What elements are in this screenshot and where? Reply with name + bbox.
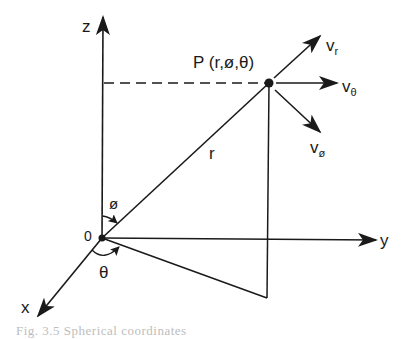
- radius-line: [102, 83, 269, 238]
- vr-label-base: v: [326, 36, 335, 55]
- xy-projection-line: [102, 238, 267, 298]
- vphi-label: vø: [310, 139, 325, 156]
- vertical-drop-line: [267, 83, 269, 298]
- vr-label-sub: r: [335, 45, 339, 57]
- vphi-label-sub: ø: [319, 147, 326, 159]
- figure-caption: Fig. 3.5 Spherical coordinates: [16, 323, 187, 339]
- x-axis-label: x: [21, 299, 30, 316]
- point-p-label: P (r,ø,θ): [193, 54, 254, 71]
- origin-label: 0: [84, 229, 92, 243]
- vphi-vector: [275, 90, 320, 132]
- phi-angle-arc: [103, 216, 118, 223]
- origin-point: [99, 235, 106, 242]
- theta-angle-arc: [92, 247, 119, 255]
- theta-angle-label: θ: [99, 264, 108, 281]
- y-axis-label: y: [380, 232, 389, 249]
- y-axis: [102, 238, 376, 240]
- vtheta-label-base: v: [342, 77, 351, 96]
- vphi-label-base: v: [310, 138, 319, 157]
- z-axis-label: z: [82, 18, 91, 35]
- vtheta-label: vθ: [342, 78, 357, 95]
- point-p: [265, 79, 274, 88]
- vtheta-label-sub: θ: [351, 86, 357, 98]
- radius-label: r: [209, 145, 215, 162]
- phi-angle-label: ø: [109, 196, 118, 211]
- z-axis: [102, 17, 103, 238]
- vr-vector: [274, 36, 320, 78]
- vr-label: vr: [326, 37, 338, 54]
